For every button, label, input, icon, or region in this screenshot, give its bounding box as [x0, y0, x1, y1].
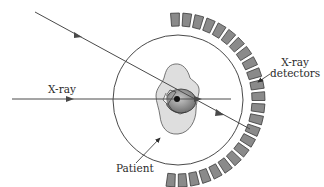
beam-arrow-icon [74, 32, 82, 38]
ct-scanner-diagram: X-ray X-ray detectors Patient [0, 0, 324, 187]
detector-segment [251, 103, 265, 112]
detectors-label: X-ray detectors [270, 57, 320, 79]
patient-organ [166, 89, 196, 113]
detector-segment [199, 169, 211, 184]
xray-label: X-ray [48, 84, 76, 95]
detector-segment [193, 15, 204, 30]
detector-segment [250, 80, 264, 91]
focus-point [174, 96, 180, 102]
beam-arrow-icon [66, 96, 74, 102]
detector-segment [182, 13, 192, 27]
detector-segment [189, 172, 200, 186]
detector-segment [252, 92, 265, 101]
detector-segment [242, 57, 257, 70]
detectors-label-line2: detectors [270, 68, 320, 79]
detector-segment [203, 18, 216, 33]
beam-arrow-icon [215, 109, 224, 116]
patient-pointer [136, 138, 160, 163]
detector-segment [249, 114, 264, 125]
detector-segment [178, 174, 187, 187]
detector-segment [166, 173, 175, 187]
detector-segment [245, 124, 260, 136]
detector-segment [247, 68, 262, 80]
patient-label: Patient [116, 163, 154, 174]
detector-segment [171, 13, 180, 26]
